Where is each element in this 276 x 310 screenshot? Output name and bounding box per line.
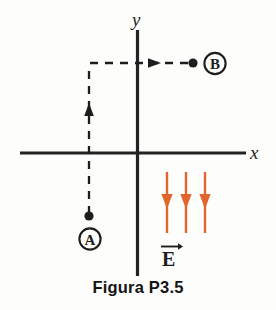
coordinate-axes: y x <box>20 9 259 276</box>
figure-caption: Figura P3.5 <box>0 278 276 297</box>
trajectory-up-arrowhead <box>84 103 94 116</box>
trajectory-right-arrowhead <box>148 58 161 68</box>
point-b-dot <box>188 58 197 67</box>
point-a-dot <box>84 211 93 220</box>
physics-figure: y x A B <box>0 0 276 310</box>
field-label-vector-arrowhead <box>178 243 183 249</box>
field-arrow-1 <box>161 172 172 233</box>
field-arrow-2 <box>180 172 191 233</box>
electric-field-label-group: E <box>161 243 183 270</box>
field-arrow-3-head <box>199 194 210 209</box>
figure-canvas: y x A B <box>0 0 276 310</box>
field-arrow-3 <box>199 172 210 233</box>
field-arrow-1-head <box>161 194 172 209</box>
field-arrow-2-head <box>180 194 191 209</box>
electric-field-arrows <box>161 172 210 233</box>
y-axis-label: y <box>130 9 141 30</box>
electric-field-symbol: E <box>162 248 175 270</box>
point-a-marker: A <box>79 211 100 249</box>
point-a-label: A <box>85 232 96 248</box>
point-b-marker: B <box>188 53 225 74</box>
point-b-label: B <box>210 56 220 72</box>
x-axis-label: x <box>249 142 259 163</box>
